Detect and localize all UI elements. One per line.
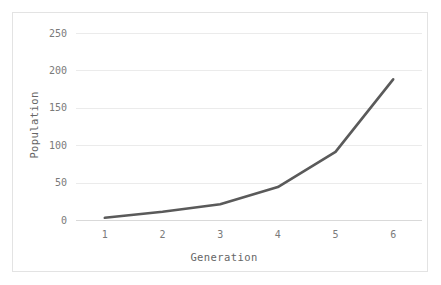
x-axis-tick-label: 1 <box>102 229 108 240</box>
y-axis-tick-label: 200 <box>49 65 67 76</box>
x-axis-tick-label: 3 <box>217 229 223 240</box>
y-axis-tick-label: 0 <box>61 215 67 226</box>
y-axis-title: Population <box>28 91 40 158</box>
x-axis-title: Generation <box>190 251 257 263</box>
y-axis-tick-label: 150 <box>49 102 67 113</box>
population-series-line <box>105 79 393 217</box>
gridlines <box>76 34 422 221</box>
x-axis-tick-labels: 123456 <box>102 229 396 240</box>
y-axis-tick-label: 100 <box>49 140 67 151</box>
y-axis-tick-label: 250 <box>49 28 67 39</box>
x-axis-tick-label: 6 <box>390 229 396 240</box>
x-axis-tick-label: 4 <box>275 229 281 240</box>
y-axis-tick-labels: 050100150200250 <box>49 28 67 226</box>
x-axis-tick-label: 2 <box>159 229 165 240</box>
x-axis-tick-label: 5 <box>332 229 338 240</box>
y-axis-tick-label: 50 <box>55 177 67 188</box>
line-chart: 050100150200250 123456 Generation Popula… <box>0 0 441 285</box>
